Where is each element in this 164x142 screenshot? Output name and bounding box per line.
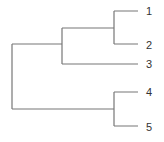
branch-4-5 xyxy=(114,92,138,126)
leaf-label-4: 4 xyxy=(146,86,152,98)
leaf-label-2: 2 xyxy=(146,39,152,51)
branch-12-3 xyxy=(62,28,138,64)
leaf-label-5: 5 xyxy=(146,121,152,133)
branch-1-2 xyxy=(114,11,138,44)
leaf-label-3: 3 xyxy=(146,58,152,70)
dendrogram xyxy=(0,0,164,142)
dendrogram-branches xyxy=(12,11,138,126)
leaf-label-1: 1 xyxy=(146,5,152,17)
branch-root xyxy=(12,44,114,109)
